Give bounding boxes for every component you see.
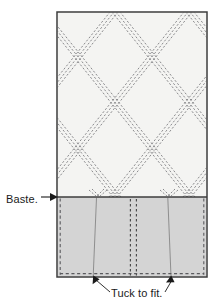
quilt-panel-illustration	[0, 0, 217, 306]
quilted-field	[58, 13, 207, 197]
baste-label: Baste.	[6, 194, 38, 205]
hem-allowance-field	[58, 197, 207, 277]
baste-leader	[41, 193, 58, 201]
diagram-canvas	[0, 0, 217, 306]
tuck-to-fit-label: Tuck to fit.	[111, 288, 163, 299]
